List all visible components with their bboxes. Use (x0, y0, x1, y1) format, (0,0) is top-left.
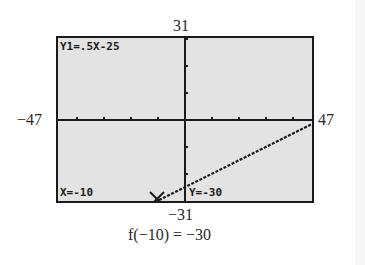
page-edge (355, 0, 365, 265)
xmax-label: 47 (318, 112, 334, 128)
ymin-label: −31 (168, 207, 193, 223)
function-label: Y1=.5X-25 (60, 41, 120, 52)
function-line (147, 124, 312, 201)
caption: f(−10) = −30 (128, 227, 211, 243)
ymax-label: 31 (173, 18, 189, 34)
trace-y-value: Y=-30 (189, 187, 222, 198)
graph-plot (58, 38, 312, 201)
xmin-label: −47 (17, 112, 42, 128)
trace-x-value: X=-10 (60, 187, 93, 198)
calculator-screen: Y1=.5X-25 X=-10 Y=-30 (56, 36, 314, 203)
